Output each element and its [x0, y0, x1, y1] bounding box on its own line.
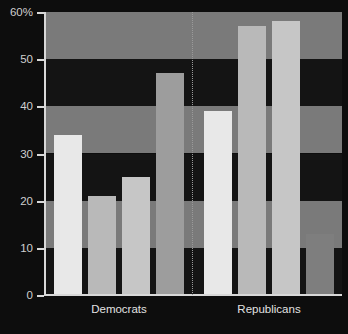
y-tick-label-0: 0: [0, 289, 33, 301]
bar-democrats-4: [156, 73, 184, 295]
bar-republicans-3: [272, 21, 300, 295]
group-divider: [192, 12, 194, 295]
bar-republicans-2: [238, 26, 266, 295]
y-tick-20: [37, 201, 44, 203]
y-tick-50: [37, 59, 44, 61]
y-tick-60: [37, 12, 44, 14]
y-tick-10: [37, 248, 44, 250]
y-tick-0: [37, 295, 44, 297]
bar-republicans-1: [204, 111, 232, 295]
bar-republicans-4: [306, 234, 334, 295]
group-label-republicans: Republicans: [237, 303, 300, 315]
y-tick-label-50: 50: [0, 53, 33, 65]
group-label-democrats: Democrats: [91, 303, 147, 315]
bar-chart: 60% 50 40 30 20 10 0 Democrats Republica…: [0, 0, 348, 334]
y-tick-label-40: 40: [0, 100, 33, 112]
bar-democrats-1: [54, 135, 82, 295]
y-tick-label-10: 10: [0, 242, 33, 254]
y-tick-30: [37, 154, 44, 156]
bar-democrats-2: [88, 196, 116, 295]
y-tick-label-20: 20: [0, 195, 33, 207]
y-tick-label-30: 30: [0, 148, 33, 160]
bar-democrats-3: [122, 177, 150, 295]
y-tick-label-60: 60%: [0, 6, 33, 18]
y-tick-40: [37, 106, 44, 108]
y-axis-line: [44, 12, 46, 296]
